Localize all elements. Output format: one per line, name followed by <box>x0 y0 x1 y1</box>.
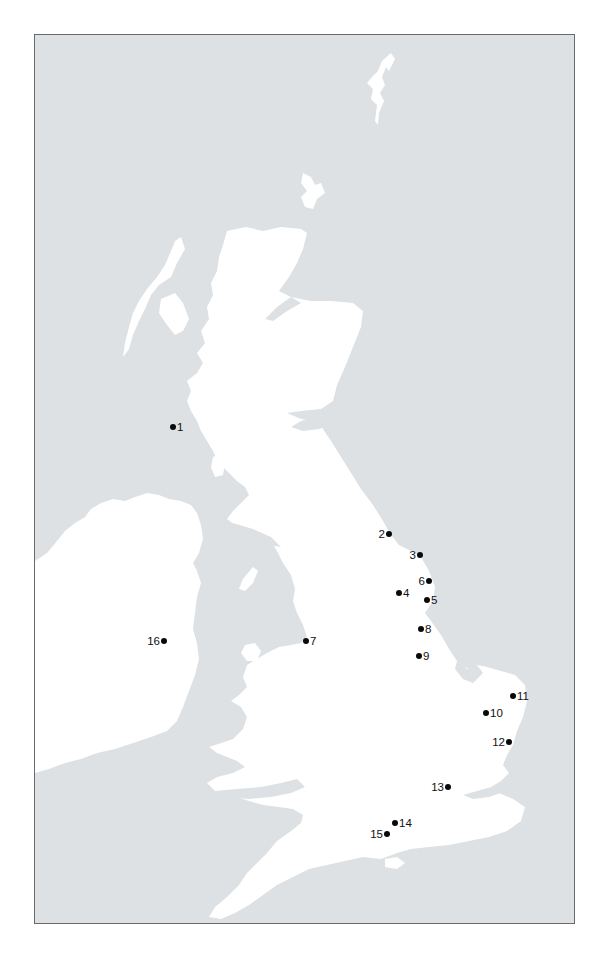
marker-dot-icon <box>386 531 392 537</box>
site-marker-12[interactable]: 12 <box>491 735 512 749</box>
marker-label: 16 <box>146 634 161 648</box>
site-marker-8[interactable]: 8 <box>418 622 432 636</box>
marker-label: 13 <box>430 780 445 794</box>
marker-dot-icon <box>161 638 167 644</box>
marker-dot-icon <box>445 784 451 790</box>
marker-label: 4 <box>402 586 410 600</box>
marker-dot-icon <box>506 739 512 745</box>
site-marker-2[interactable]: 2 <box>378 527 392 541</box>
site-marker-14[interactable]: 14 <box>392 816 413 830</box>
marker-label: 8 <box>424 622 432 636</box>
site-marker-10[interactable]: 10 <box>483 706 504 720</box>
map-frame: 12345678910111213141516 <box>34 34 575 924</box>
site-marker-15[interactable]: 15 <box>369 827 390 841</box>
site-marker-7[interactable]: 7 <box>303 634 317 648</box>
marker-label: 15 <box>369 827 384 841</box>
site-marker-9[interactable]: 9 <box>416 649 430 663</box>
marker-label: 3 <box>409 548 417 562</box>
marker-label: 6 <box>418 574 426 588</box>
marker-label: 2 <box>378 527 386 541</box>
marker-label: 9 <box>422 649 430 663</box>
marker-dot-icon <box>384 831 390 837</box>
site-marker-11[interactable]: 11 <box>510 689 530 703</box>
marker-label: 14 <box>398 816 413 830</box>
site-marker-13[interactable]: 13 <box>430 780 451 794</box>
site-marker-6[interactable]: 6 <box>418 574 432 588</box>
marker-label: 10 <box>489 706 504 720</box>
marker-dot-icon <box>417 552 423 558</box>
marker-dot-icon <box>426 578 432 584</box>
site-marker-1[interactable]: 1 <box>170 420 184 434</box>
marker-label: 11 <box>516 689 530 703</box>
marker-label: 5 <box>430 593 438 607</box>
site-marker-16[interactable]: 16 <box>146 634 167 648</box>
uk-ireland-map[interactable] <box>35 35 575 924</box>
marker-label: 1 <box>176 420 184 434</box>
site-marker-5[interactable]: 5 <box>424 593 438 607</box>
site-marker-3[interactable]: 3 <box>409 548 423 562</box>
marker-label: 12 <box>491 735 506 749</box>
marker-label: 7 <box>309 634 317 648</box>
site-marker-4[interactable]: 4 <box>396 586 410 600</box>
